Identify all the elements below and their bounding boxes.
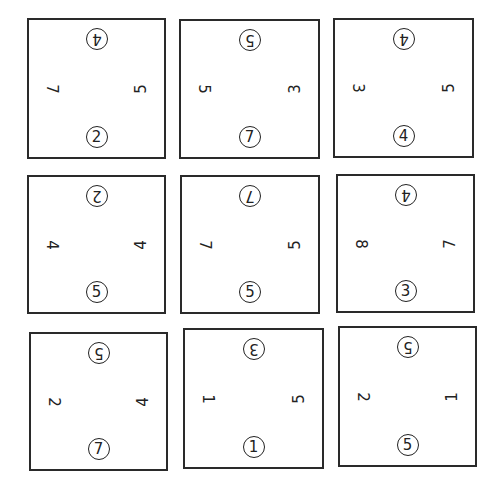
left-number: 2 [352,386,374,408]
tile-r2-c0[interactable]: 5 4 7 2 [29,332,168,471]
bottom-circled-number: 7 [239,126,261,148]
tile-r0-c1[interactable]: 5 3 7 5 [179,19,320,159]
left-number: 8 [350,233,372,255]
bottom-circled-number: 5 [397,434,419,456]
bottom-circled-number: 5 [239,281,261,303]
puzzle-grid: 4 5 2 7 5 3 7 5 4 5 4 3 2 4 5 4 7 5 5 7 … [0,0,499,490]
top-circled-number: 4 [395,184,417,206]
top-circled-number: 5 [397,336,419,358]
top-circled-number: 4 [86,28,108,50]
left-number: 4 [41,234,63,256]
bottom-circled-number: 1 [243,436,265,458]
right-number: 4 [130,234,152,256]
left-number: 5 [193,78,215,100]
tile-r0-c2[interactable]: 4 5 4 3 [333,18,474,158]
bottom-circled-number: 7 [88,438,110,460]
right-number: 5 [438,77,460,99]
top-circled-number: 4 [393,28,415,50]
left-number: 7 [194,234,216,256]
tile-r2-c1[interactable]: 3 5 1 1 [183,328,324,469]
left-number: 2 [43,391,65,413]
bottom-circled-number: 2 [86,126,108,148]
top-circled-number: 5 [239,29,261,51]
right-number: 3 [284,78,306,100]
right-number: 1 [441,386,463,408]
top-circled-number: 3 [243,338,265,360]
left-number: 3 [347,77,369,99]
right-number: 5 [288,388,310,410]
top-circled-number: 7 [239,185,261,207]
tile-r1-c1[interactable]: 7 5 5 7 [180,175,320,314]
right-number: 5 [284,234,306,256]
tile-r1-c2[interactable]: 4 7 3 8 [336,174,475,313]
right-number: 7 [439,233,461,255]
bottom-circled-number: 5 [86,281,108,303]
tile-r2-c2[interactable]: 5 1 5 2 [338,326,477,467]
bottom-circled-number: 4 [393,125,415,147]
tile-r1-c0[interactable]: 2 4 5 4 [27,175,166,314]
bottom-circled-number: 3 [395,280,417,302]
left-number: 1 [197,388,219,410]
right-number: 4 [132,391,154,413]
top-circled-number: 5 [88,342,110,364]
tile-r0-c0[interactable]: 4 5 2 7 [27,18,166,159]
top-circled-number: 2 [86,185,108,207]
right-number: 5 [130,78,152,100]
left-number: 7 [41,78,63,100]
